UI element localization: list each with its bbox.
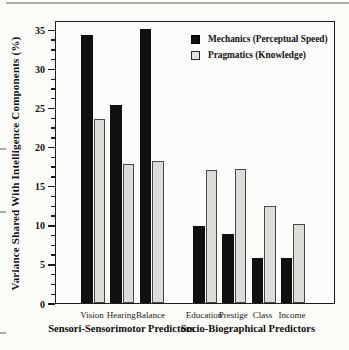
legend-label-pragmatics: Pragmatics (Knowledge) [208, 50, 306, 60]
figure: Variance Shared With Intelligence Compon… [0, 0, 349, 350]
y-minor-tick [51, 157, 55, 158]
bar-class-pragmatics [264, 206, 276, 303]
bar-hearing-pragmatics [123, 164, 135, 303]
y-major-tick [48, 225, 55, 226]
y-minor-tick [51, 49, 55, 50]
scan-artifact [0, 211, 6, 213]
page-rule [6, 2, 349, 4]
y-tick-label: 30 [15, 64, 45, 75]
bar-education-mechanics [193, 226, 205, 303]
y-minor-tick [51, 294, 55, 295]
y-minor-tick [51, 39, 55, 40]
y-minor-tick [51, 98, 55, 99]
y-minor-tick [51, 254, 55, 255]
scan-artifact [0, 148, 6, 150]
legend-label-mechanics: Mechanics (Perceptual Speed) [208, 34, 328, 44]
bar-class-mechanics [252, 258, 264, 303]
bar-prestige-mechanics [222, 234, 234, 303]
bar-vision-pragmatics [94, 119, 106, 303]
y-minor-tick [51, 274, 55, 275]
bar-income-pragmatics [293, 224, 305, 303]
y-tick-label: 15 [15, 181, 45, 192]
y-minor-tick [51, 137, 55, 138]
y-major-tick [48, 186, 55, 187]
y-minor-tick [51, 245, 55, 246]
y-minor-tick [51, 79, 55, 80]
pragmatics-swatch-icon [191, 51, 200, 60]
bar-hearing-mechanics [110, 105, 122, 303]
y-tick-label: 25 [15, 103, 45, 114]
y-minor-tick [51, 88, 55, 89]
y-major-tick [48, 69, 55, 70]
legend: Mechanics (Perceptual Speed) Pragmatics … [191, 34, 328, 66]
y-tick-label: 10 [15, 220, 45, 231]
legend-item-pragmatics: Pragmatics (Knowledge) [191, 50, 328, 60]
y-tick-label: 0 [15, 299, 45, 310]
y-minor-tick [51, 215, 55, 216]
y-minor-tick [51, 284, 55, 285]
y-minor-tick [51, 59, 55, 60]
y-tick-label: 20 [15, 142, 45, 153]
group-label-socio-biographical: Socio-Biographical Predictors [153, 323, 343, 334]
legend-item-mechanics: Mechanics (Perceptual Speed) [191, 34, 328, 44]
bar-vision-mechanics [81, 35, 93, 303]
y-tick-label: 35 [15, 25, 45, 36]
category-label-income: Income [260, 310, 324, 320]
y-major-tick [48, 147, 55, 148]
plot-area: Mechanics (Perceptual Speed) Pragmatics … [55, 21, 335, 304]
y-tick-label: 5 [15, 259, 45, 270]
bar-education-pragmatics [206, 170, 218, 303]
y-minor-tick [51, 206, 55, 207]
y-minor-tick [51, 118, 55, 119]
y-major-tick [48, 264, 55, 265]
y-major-tick [48, 108, 55, 109]
y-minor-tick [51, 127, 55, 128]
y-minor-tick [51, 235, 55, 236]
bar-balance-mechanics [140, 29, 152, 303]
y-major-tick [48, 303, 55, 304]
bar-prestige-pragmatics [235, 169, 247, 303]
bar-income-mechanics [281, 258, 293, 303]
y-minor-tick [51, 196, 55, 197]
bar-balance-pragmatics [152, 161, 164, 303]
y-minor-tick [51, 166, 55, 167]
y-major-tick [48, 30, 55, 31]
scan-artifact [0, 332, 6, 334]
y-minor-tick [51, 176, 55, 177]
mechanics-swatch-icon [191, 35, 200, 44]
